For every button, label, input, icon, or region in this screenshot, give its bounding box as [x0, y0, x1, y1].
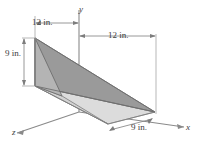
- wedge-figure: [0, 0, 203, 147]
- dim-arrow-top-right-end: [150, 34, 156, 38]
- dimension-label-top-right: 12 in.: [108, 31, 129, 40]
- dim-arrow-base-left: [109, 126, 115, 131]
- axis-z-line: [17, 112, 79, 133]
- dim-arrow-left-top: [22, 38, 26, 44]
- dimension-label-left-height: 9 in.: [5, 49, 21, 58]
- axis-label-z: z: [12, 128, 16, 137]
- dim-arrow-left-bottom: [22, 80, 26, 86]
- dim-arrow-top-left-end: [73, 21, 79, 25]
- dimension-label-top-left: 12 in.: [32, 18, 53, 27]
- dimension-label-base-depth: 9 in.: [131, 123, 147, 132]
- axis-label-x: x: [186, 123, 190, 132]
- axis-label-y: y: [79, 5, 83, 14]
- dim-arrow-base-right: [147, 118, 153, 124]
- dim-arrow-top-right-start: [79, 34, 85, 38]
